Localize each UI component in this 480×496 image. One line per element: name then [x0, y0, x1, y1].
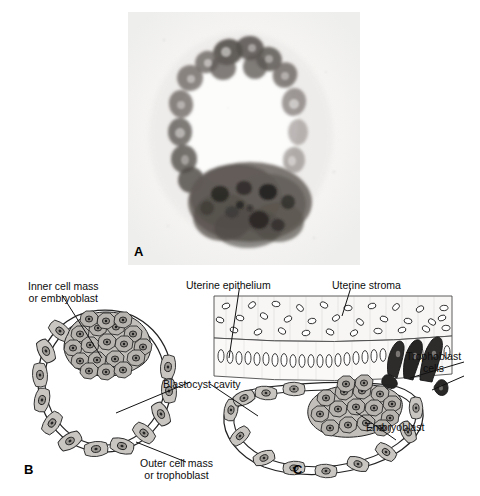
label-trophoblast-cells-line1: Trophoblast: [406, 350, 461, 362]
figure-root: A: [0, 0, 480, 496]
panel-a-letter: A: [134, 244, 144, 259]
label-trophoblast-cells: Trophoblast cells: [406, 350, 461, 374]
panel-b-letter: B: [24, 462, 34, 477]
panel-c-diagram: C: [196, 288, 466, 493]
label-inner-cell-mass: Inner cell mass or embryoblast: [28, 280, 99, 304]
label-outer-cell-mass-line2: or trophoblast: [140, 469, 213, 481]
panel-a-micrograph: A: [128, 12, 360, 265]
panel-c-drawing: [196, 288, 466, 493]
label-uterine-stroma: Uterine stroma: [332, 279, 401, 291]
label-trophoblast-cells-line2: cells: [406, 362, 461, 374]
label-embryoblast: Embryoblast: [366, 421, 424, 433]
label-outer-cell-mass-line1: Outer cell mass: [140, 457, 213, 469]
label-blastocyst-cavity: Blastocyst cavity: [163, 378, 241, 390]
label-inner-cell-mass-line2: or embryoblast: [28, 292, 99, 304]
panel-c-letter: C: [293, 462, 303, 477]
micrograph-image: [128, 12, 360, 265]
label-inner-cell-mass-line1: Inner cell mass: [28, 280, 99, 292]
label-uterine-epithelium: Uterine epithelium: [186, 279, 271, 291]
label-outer-cell-mass: Outer cell mass or trophoblast: [140, 457, 213, 481]
